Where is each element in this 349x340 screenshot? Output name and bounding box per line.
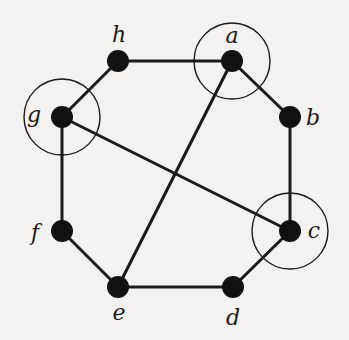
node-e [107,276,129,298]
node-a [221,50,243,72]
node-h [107,50,129,72]
edge-a-b [232,61,290,117]
node-label-h: h [112,22,126,47]
edge-c-d [233,231,290,287]
node-label-c: c [308,218,320,243]
edge-e-f [62,231,118,287]
node-label-a: a [225,23,238,48]
node-c [279,220,301,242]
node-label-b: b [306,105,320,130]
node-g [51,106,73,128]
edge-h-g [62,61,118,117]
node-f [51,220,73,242]
node-b [279,106,301,128]
edges-group [62,61,290,287]
node-label-f: f [29,220,43,245]
graph-diagram: abcdefgh [0,0,349,340]
node-d [222,276,244,298]
node-label-d: d [226,305,240,330]
node-label-g: g [27,102,41,127]
node-label-e: e [112,300,125,325]
